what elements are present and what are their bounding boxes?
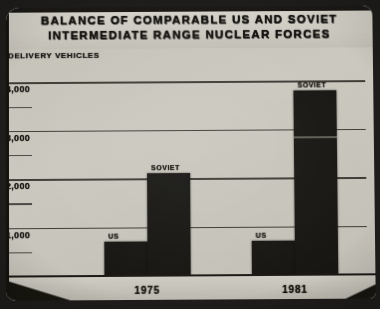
x-tick-label-1975: 1975	[134, 285, 160, 296]
minor-tick-1500	[8, 203, 32, 204]
x-axis-band: 19751981	[6, 275, 376, 300]
slide-left-edge	[6, 8, 9, 301]
bar-1975-soviet	[147, 173, 191, 275]
bar-label-1975-soviet: SOVIET	[151, 164, 180, 171]
bar-subdivision-line	[294, 136, 337, 138]
minor-tick-3500	[8, 107, 32, 108]
grid-and-bars: 4,0003,0002,0001,000USSOVIETUSSOVIET	[46, 61, 368, 276]
minor-tick-500	[8, 252, 32, 253]
minor-tick-2500	[8, 155, 32, 156]
chart-title-line-1: BALANCE OF COMPARABLE US AND SOVIET	[6, 13, 373, 27]
y-tick-label-2000: 2,000	[6, 181, 30, 191]
y-tick-label-1000: 1,000	[6, 230, 30, 240]
bar-1981-soviet	[293, 90, 338, 275]
bar-1975-us	[104, 242, 147, 276]
bar-1981-us	[252, 241, 296, 275]
chart-title-banner: BALANCE OF COMPARABLE US AND SOVIET INTE…	[6, 6, 373, 52]
photographed-slide-frame: BALANCE OF COMPARABLE US AND SOVIET INTE…	[0, 0, 380, 309]
y-tick-label-3000: 3,000	[6, 133, 30, 143]
bar-label-1975-us: US	[108, 233, 119, 240]
bar-label-1981-soviet: SOVIET	[298, 81, 327, 88]
banner-top-stripe	[6, 6, 372, 13]
plot-area: DELIVERY VEHICLES 4,0003,0002,0001,000US…	[6, 47, 376, 301]
y-tick-label-4000: 4,000	[6, 84, 30, 94]
chart-title-line-2: INTERMEDIATE RANGE NUCLEAR FORCES	[6, 27, 373, 41]
y-axis-caption: DELIVERY VEHICLES	[8, 51, 100, 61]
bar-label-1981-us: US	[256, 232, 267, 239]
chart-slide: BALANCE OF COMPARABLE US AND SOVIET INTE…	[6, 6, 376, 301]
x-tick-label-1981: 1981	[282, 284, 308, 295]
